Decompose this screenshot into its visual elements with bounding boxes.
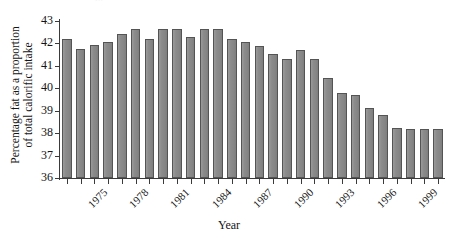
x-tick [232, 179, 233, 184]
x-tick [149, 179, 150, 184]
x-tick [273, 179, 274, 184]
x-tick [177, 179, 178, 184]
x-tick [122, 179, 123, 184]
x-tick [424, 179, 425, 184]
y-tick-label: 40 [41, 80, 53, 95]
x-tick [383, 179, 384, 184]
x-tick-label: 1978 [127, 186, 151, 210]
x-tick [259, 179, 260, 184]
y-tick [55, 156, 60, 157]
bar [227, 39, 237, 178]
x-tick [369, 179, 370, 184]
y-tick-label: 43 [41, 13, 53, 28]
x-tick [397, 179, 398, 184]
bar [351, 95, 361, 178]
bar [213, 29, 223, 178]
x-tick [191, 179, 192, 184]
y-axis-title-line2: of total calorific intake [22, 26, 35, 163]
bar [365, 108, 375, 178]
bar [392, 128, 402, 178]
y-tick-label: 39 [41, 103, 53, 118]
x-tick-label: 1984 [209, 186, 233, 210]
x-tick-label: 1999 [415, 186, 439, 210]
x-tick [314, 179, 315, 184]
y-tick [55, 111, 60, 112]
x-axis-line [59, 178, 445, 179]
x-tick [342, 179, 343, 184]
chart-figure: ··· Percentage fat as a proportion of to… [0, 0, 458, 240]
y-tick-label: 37 [41, 148, 53, 163]
bar [103, 42, 113, 178]
y-tick-label: 42 [41, 35, 53, 50]
y-tick [55, 21, 60, 22]
x-tick-label: 1975 [85, 186, 109, 210]
x-tick-label: 1990 [292, 186, 316, 210]
bar [406, 129, 416, 178]
bar [158, 29, 168, 178]
x-tick [67, 179, 68, 184]
x-tick [204, 179, 205, 184]
bar [255, 46, 265, 178]
bar [62, 39, 72, 178]
x-tick-label: 1987 [250, 186, 274, 210]
y-tick-label: 36 [41, 170, 53, 185]
bar [131, 29, 141, 178]
x-tick [94, 179, 95, 184]
clipped-caption-remnant: ··· [95, 0, 275, 6]
x-tick-label: 1996 [374, 186, 398, 210]
y-tick [55, 133, 60, 134]
bar [323, 78, 333, 178]
bar [90, 45, 100, 178]
y-axis-title-line1: Percentage fat as a proportion [9, 26, 22, 163]
x-axis-title: Year [0, 218, 458, 233]
y-tick-label: 41 [41, 58, 53, 73]
x-tick [438, 179, 439, 184]
x-tick [81, 179, 82, 184]
x-tick [163, 179, 164, 184]
y-tick [55, 178, 60, 179]
y-tick-label: 38 [41, 125, 53, 140]
bar [172, 29, 182, 178]
bar [378, 115, 388, 178]
bar [200, 29, 210, 178]
bar [310, 59, 320, 178]
x-tick [218, 179, 219, 184]
y-tick [55, 43, 60, 44]
y-axis-title: Percentage fat as a proportion of total … [0, 0, 44, 190]
x-tick-label: 1981 [168, 186, 192, 210]
x-tick [328, 179, 329, 184]
x-tick [246, 179, 247, 184]
x-tick [136, 179, 137, 184]
x-tick [108, 179, 109, 184]
bar [241, 42, 251, 178]
bar [337, 93, 347, 178]
bar [76, 49, 86, 178]
x-tick [287, 179, 288, 184]
bar [145, 39, 155, 178]
x-tick [301, 179, 302, 184]
bar [268, 54, 278, 178]
bar [420, 129, 430, 178]
plot-area: 3637383940414243 19751978198119841987199… [60, 21, 445, 178]
bar [296, 50, 306, 178]
x-tick-label: 1993 [333, 186, 357, 210]
y-tick [55, 66, 60, 67]
y-tick [55, 88, 60, 89]
bar [433, 129, 443, 178]
x-tick [356, 179, 357, 184]
bar [282, 59, 292, 178]
bar [117, 34, 127, 178]
x-tick [411, 179, 412, 184]
bar [186, 37, 196, 178]
